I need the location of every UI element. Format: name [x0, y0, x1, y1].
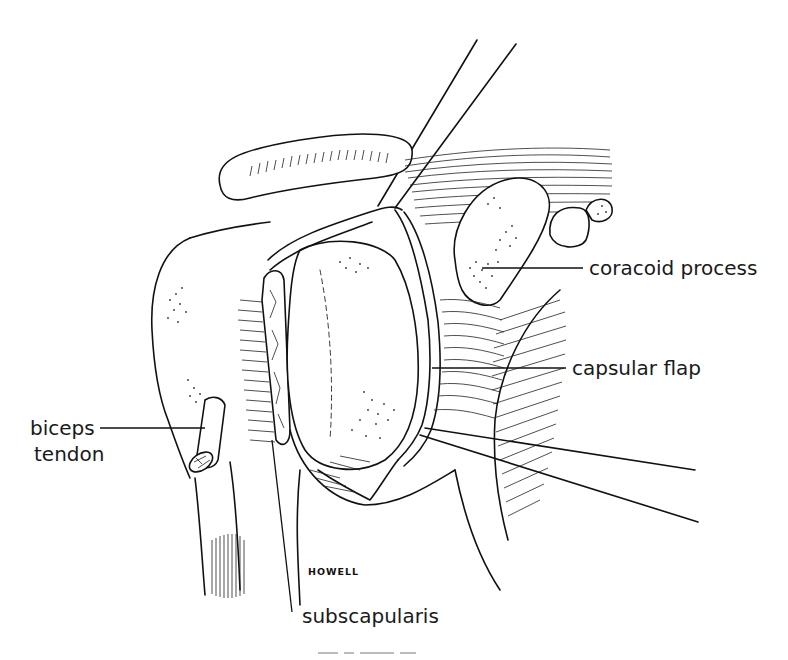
label-capsular-flap: capsular flap	[572, 356, 701, 380]
label-subscapularis: subscapularis	[302, 604, 439, 628]
scapular-muscle-fan	[492, 290, 566, 540]
label-biceps-tendon-line2: tendon	[34, 442, 104, 466]
label-biceps-tendon-line1: biceps	[30, 416, 95, 440]
coracoid-process	[454, 178, 612, 305]
capsule-fibers	[434, 299, 504, 418]
cropped-caption-fragment	[318, 652, 468, 660]
acromion	[219, 134, 412, 200]
biceps-tendon	[186, 397, 225, 476]
lower-retractor	[420, 428, 698, 522]
subscapularis-strip	[238, 271, 290, 445]
label-coracoid-process: coracoid process	[589, 256, 757, 280]
shoulder-anatomy-illustration	[0, 0, 788, 660]
humeral-head	[287, 241, 418, 469]
artist-signature: HOWELL	[308, 566, 359, 577]
